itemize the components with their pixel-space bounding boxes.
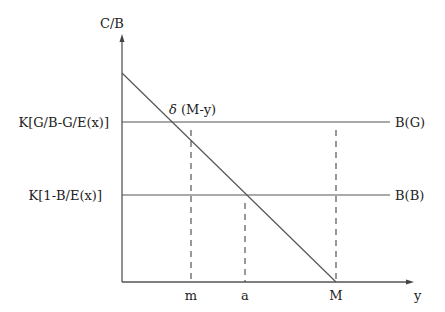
diagonal-label-expr: (M-y) bbox=[181, 102, 216, 117]
y-axis-arrow-icon bbox=[120, 34, 125, 42]
diagonal-label-delta: δ bbox=[169, 102, 177, 117]
x-axis-label: y bbox=[413, 288, 422, 303]
x-axis-arrow-icon bbox=[406, 280, 414, 285]
x-tick-m: m bbox=[185, 288, 197, 303]
x-tick-labels: m a M bbox=[185, 288, 343, 303]
line-bg-left-label: K[G/B-G/E(x)] bbox=[18, 115, 109, 130]
x-tick-a: a bbox=[241, 288, 249, 303]
line-bb-left-label: K[1-B/E(x)] bbox=[29, 188, 102, 203]
line-bg: K[G/B-G/E(x)] B(G) bbox=[18, 115, 425, 130]
line-bb: K[1-B/E(x)] B(B) bbox=[29, 188, 425, 203]
x-axis: y bbox=[122, 280, 422, 304]
line-bg-right-label: B(G) bbox=[395, 115, 425, 130]
line-bb-right-label: B(B) bbox=[395, 188, 424, 203]
y-axis-label: C/B bbox=[100, 16, 124, 31]
dashed-guides bbox=[191, 130, 336, 282]
diagonal-line: δ (M-y) bbox=[122, 73, 336, 282]
economic-diagram: C/B y K[G/B-G/E(x)] B(G) K[1-B/E(x)] B(B… bbox=[0, 0, 445, 312]
x-tick-M: M bbox=[329, 288, 342, 303]
y-axis: C/B bbox=[100, 16, 125, 282]
